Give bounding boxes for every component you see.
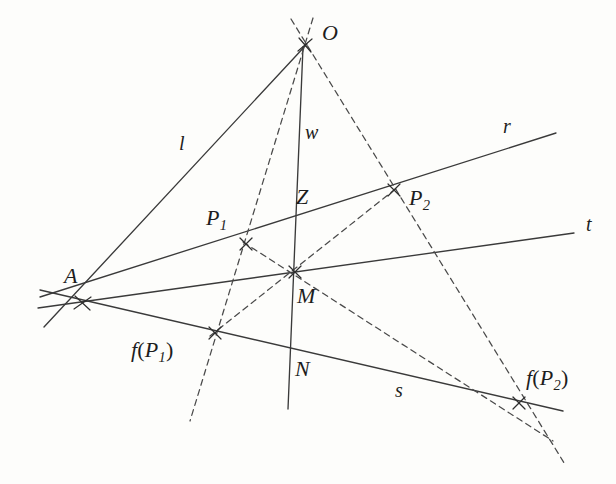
line-label-l: l — [179, 133, 185, 153]
line-l — [44, 44, 307, 327]
point-label-O: O — [322, 22, 338, 44]
point-label-P1-base: P — [206, 205, 220, 230]
point-label-fP2: f(P2) — [526, 367, 568, 393]
point-label-P2-sub: 2 — [423, 197, 430, 213]
point-label-P2: P2 — [409, 187, 430, 213]
point-label-fP1-open: ( — [137, 337, 145, 362]
line-s — [40, 290, 563, 411]
point-label-fP2-close: ) — [561, 365, 569, 390]
line-w — [288, 47, 303, 409]
point-label-fP1-base: P — [145, 337, 159, 362]
point-label-fP2-sub: 2 — [553, 377, 560, 393]
vertex-mark-P1 — [240, 238, 252, 250]
line-label-t: t — [586, 214, 592, 234]
vertex-mark-fP2 — [513, 397, 525, 409]
line-label-w: w — [305, 122, 319, 142]
point-label-M: M — [297, 285, 316, 307]
point-label-A: A — [64, 265, 78, 287]
dash-line-O-fP2 — [291, 19, 566, 466]
line-label-r: r — [503, 116, 511, 136]
line-label-s: s — [395, 380, 403, 400]
geometry-canvas — [0, 0, 616, 484]
point-label-fP2-open: ( — [532, 365, 540, 390]
geometry-figure: O A P1 P2 M N Z f(P1) f(P2) l w r t s — [0, 0, 616, 484]
point-label-Z: Z — [296, 186, 308, 208]
dash-line-P1-fP2 — [243, 242, 553, 441]
vertex-mark-P2 — [388, 184, 400, 196]
point-label-P1-sub: 1 — [220, 217, 227, 233]
vertex-mark-O — [298, 38, 312, 52]
point-label-fP2-base: P — [540, 365, 554, 390]
point-label-fP1-close: ) — [166, 337, 174, 362]
point-label-N: N — [295, 358, 310, 380]
point-label-fP1: f(P1) — [131, 339, 173, 365]
point-label-fP1-sub: 1 — [158, 349, 165, 365]
vertex-mark-fP1 — [209, 327, 221, 339]
point-label-P1: P1 — [206, 207, 227, 233]
point-label-P2-base: P — [409, 185, 423, 210]
